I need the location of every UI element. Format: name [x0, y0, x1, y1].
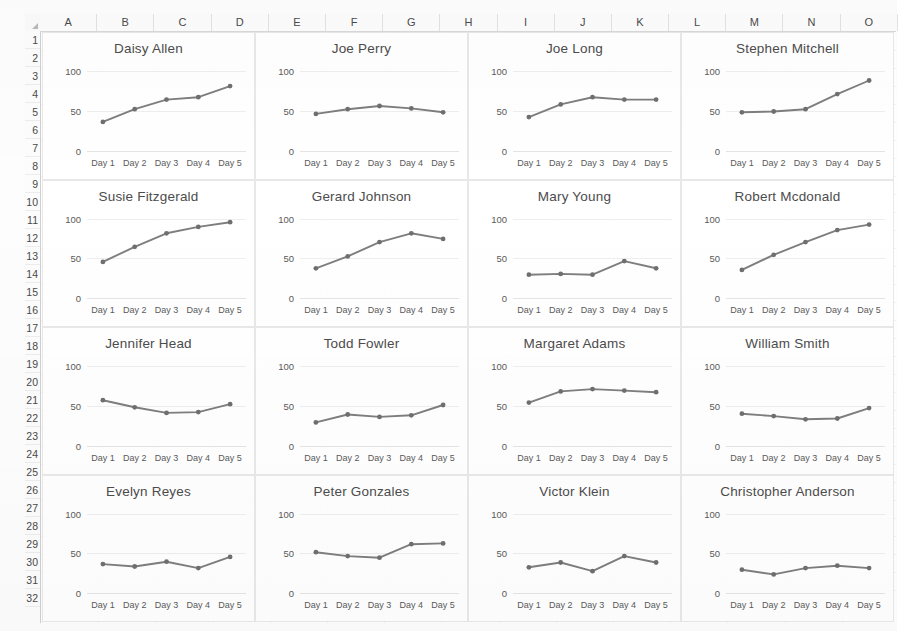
column-header-row: ABCDEFGHIJKLMNO — [40, 14, 898, 31]
chart-card[interactable]: Evelyn Reyes050100Day 1Day 2Day 3Day 4Da… — [42, 475, 255, 623]
column-header-a[interactable]: A — [40, 14, 97, 31]
chart-plot-area: 050100Day 1Day 2Day 3Day 4Day 5 — [43, 354, 254, 474]
row-header-10[interactable]: 10 — [25, 193, 40, 211]
row-header-2[interactable]: 2 — [25, 49, 40, 67]
x-axis-tick-label: Day 5 — [640, 453, 672, 463]
column-header-o[interactable]: O — [841, 14, 898, 31]
chart-card[interactable]: Victor Klein050100Day 1Day 2Day 3Day 4Da… — [468, 475, 681, 623]
row-header-4[interactable]: 4 — [25, 85, 40, 103]
column-header-n[interactable]: N — [783, 14, 840, 31]
row-header-16[interactable]: 16 — [25, 301, 40, 319]
column-header-l[interactable]: L — [669, 14, 726, 31]
x-axis-labels: Day 1Day 2Day 3Day 4Day 5 — [300, 453, 459, 463]
row-header-5[interactable]: 5 — [25, 103, 40, 121]
column-header-c[interactable]: C — [154, 14, 211, 31]
row-header-15[interactable]: 15 — [25, 283, 40, 301]
row-header-17[interactable]: 17 — [25, 319, 40, 337]
row-header-7[interactable]: 7 — [25, 139, 40, 157]
chart-card[interactable]: Stephen Mitchell050100Day 1Day 2Day 3Day… — [681, 32, 894, 180]
column-header-b[interactable]: B — [97, 14, 154, 31]
chart-card[interactable]: Gerard Johnson050100Day 1Day 2Day 3Day 4… — [255, 180, 468, 328]
chart-data-point — [803, 107, 808, 112]
chart-data-point — [132, 107, 137, 112]
x-axis-tick-label: Day 2 — [119, 305, 151, 315]
x-axis-tick-label: Day 1 — [513, 305, 545, 315]
row-header-25[interactable]: 25 — [25, 463, 40, 481]
column-header-g[interactable]: G — [383, 14, 440, 31]
row-header-20[interactable]: 20 — [25, 373, 40, 391]
row-header-8[interactable]: 8 — [25, 157, 40, 175]
row-header-21[interactable]: 21 — [25, 391, 40, 409]
column-header-m[interactable]: M — [726, 14, 783, 31]
x-axis-tick-label: Day 5 — [853, 600, 885, 610]
row-header-32[interactable]: 32 — [25, 589, 40, 607]
x-axis-tick-label: Day 5 — [427, 305, 459, 315]
chart-data-point — [345, 553, 350, 558]
row-header-27[interactable]: 27 — [25, 499, 40, 517]
row-header-13[interactable]: 13 — [25, 247, 40, 265]
x-axis-tick-label: Day 2 — [545, 453, 577, 463]
chart-data-point — [654, 390, 659, 395]
chart-data-point — [314, 112, 319, 117]
x-axis-tick-label: Day 4 — [821, 158, 853, 168]
x-axis-tick-label: Day 4 — [821, 305, 853, 315]
row-header-19[interactable]: 19 — [25, 355, 40, 373]
row-header-6[interactable]: 6 — [25, 121, 40, 139]
x-axis-tick-label: Day 3 — [151, 158, 183, 168]
row-header-23[interactable]: 23 — [25, 427, 40, 445]
chart-card[interactable]: Susie Fitzgerald050100Day 1Day 2Day 3Day… — [42, 180, 255, 328]
row-header-1[interactable]: 1 — [25, 31, 40, 49]
select-all-corner[interactable] — [25, 14, 41, 32]
x-axis-tick-label: Day 2 — [545, 158, 577, 168]
column-header-f[interactable]: F — [326, 14, 383, 31]
row-header-12[interactable]: 12 — [25, 229, 40, 247]
x-axis-tick-label: Day 4 — [395, 600, 427, 610]
chart-card[interactable]: Daisy Allen050100Day 1Day 2Day 3Day 4Day… — [42, 32, 255, 180]
chart-card[interactable]: Jennifer Head050100Day 1Day 2Day 3Day 4D… — [42, 327, 255, 475]
row-header-26[interactable]: 26 — [25, 481, 40, 499]
row-header-22[interactable]: 22 — [25, 409, 40, 427]
row-header-3[interactable]: 3 — [25, 67, 40, 85]
chart-title: Margaret Adams — [469, 336, 680, 351]
chart-card[interactable]: Joe Long050100Day 1Day 2Day 3Day 4Day 5 — [468, 32, 681, 180]
x-axis-tick-label: Day 3 — [151, 305, 183, 315]
chart-plot-area: 050100Day 1Day 2Day 3Day 4Day 5 — [256, 59, 467, 179]
chart-data-point — [740, 567, 745, 572]
chart-data-point — [196, 565, 201, 570]
row-header-18[interactable]: 18 — [25, 337, 40, 355]
row-header-11[interactable]: 11 — [25, 211, 40, 229]
column-header-k[interactable]: K — [612, 14, 669, 31]
chart-data-point — [228, 84, 233, 89]
column-header-j[interactable]: J — [555, 14, 612, 31]
chart-card[interactable]: Joe Perry050100Day 1Day 2Day 3Day 4Day 5 — [255, 32, 468, 180]
row-header-30[interactable]: 30 — [25, 553, 40, 571]
chart-card[interactable]: William Smith050100Day 1Day 2Day 3Day 4D… — [681, 327, 894, 475]
column-header-i[interactable]: I — [498, 14, 555, 31]
row-header-14[interactable]: 14 — [25, 265, 40, 283]
chart-data-point — [654, 265, 659, 270]
chart-data-point — [771, 252, 776, 257]
chart-title: Peter Gonzales — [256, 484, 467, 499]
chart-card[interactable]: Todd Fowler050100Day 1Day 2Day 3Day 4Day… — [255, 327, 468, 475]
row-header-24[interactable]: 24 — [25, 445, 40, 463]
chart-data-point — [101, 398, 106, 403]
row-header-31[interactable]: 31 — [25, 571, 40, 589]
chart-data-point — [740, 110, 745, 115]
chart-card[interactable]: Peter Gonzales050100Day 1Day 2Day 3Day 4… — [255, 475, 468, 623]
x-axis-tick-label: Day 5 — [427, 453, 459, 463]
x-axis-tick-label: Day 4 — [608, 158, 640, 168]
chart-data-point — [835, 227, 840, 232]
chart-card[interactable]: Christopher Anderson050100Day 1Day 2Day … — [681, 475, 894, 623]
x-axis-tick-label: Day 1 — [726, 305, 758, 315]
column-header-d[interactable]: D — [212, 14, 269, 31]
chart-card[interactable]: Margaret Adams050100Day 1Day 2Day 3Day 4… — [468, 327, 681, 475]
row-header-9[interactable]: 9 — [25, 175, 40, 193]
column-header-e[interactable]: E — [269, 14, 326, 31]
row-header-29[interactable]: 29 — [25, 535, 40, 553]
chart-card[interactable]: Mary Young050100Day 1Day 2Day 3Day 4Day … — [468, 180, 681, 328]
column-header-h[interactable]: H — [440, 14, 497, 31]
chart-plot-area: 050100Day 1Day 2Day 3Day 4Day 5 — [682, 59, 893, 179]
row-header-28[interactable]: 28 — [25, 517, 40, 535]
chart-card[interactable]: Robert Mcdonald050100Day 1Day 2Day 3Day … — [681, 180, 894, 328]
chart-data-point — [164, 97, 169, 102]
